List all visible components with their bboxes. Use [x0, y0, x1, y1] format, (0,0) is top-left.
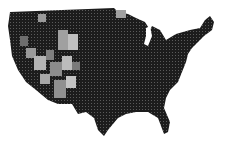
us-outline	[8, 8, 214, 136]
us-county-choropleth-map	[0, 0, 227, 150]
